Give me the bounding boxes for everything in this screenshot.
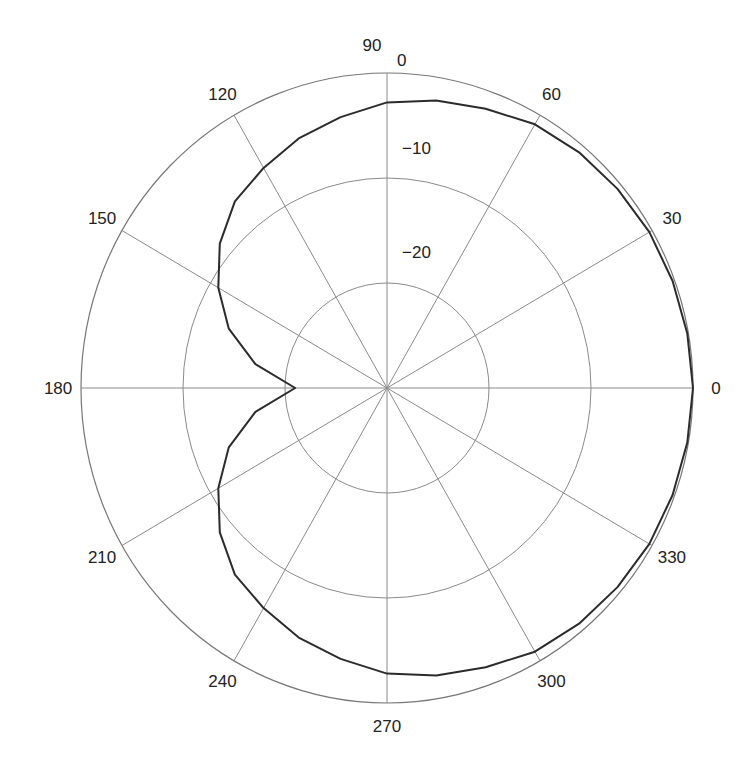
angle-label-0: 0 (711, 379, 720, 398)
angle-label-90: 90 (363, 36, 382, 55)
angle-label-240: 240 (208, 672, 236, 691)
angle-label-300: 300 (537, 672, 565, 691)
angle-label-30: 30 (662, 209, 681, 228)
angle-label-210: 210 (88, 548, 116, 567)
angle-tick-labels: 0306090120150180210240270300330 (44, 36, 721, 736)
angle-label-60: 60 (542, 85, 561, 104)
spoke-300 (387, 388, 540, 661)
angle-label-180: 180 (44, 379, 72, 398)
angle-spokes (81, 73, 693, 703)
angle-label-150: 150 (88, 209, 116, 228)
top-zero-label: 0 (397, 51, 406, 70)
radial-label-minus10: −10 (402, 139, 431, 158)
spoke-330 (387, 388, 652, 546)
angle-label-270: 270 (373, 717, 401, 736)
spoke-240 (234, 388, 387, 661)
angle-label-330: 330 (658, 548, 686, 567)
polar-chart: 0306090120150180210240270300330 0 −10 −2… (0, 0, 754, 771)
angle-label-120: 120 (208, 85, 236, 104)
radial-label-minus20: −20 (402, 243, 431, 262)
spoke-120 (234, 115, 387, 388)
